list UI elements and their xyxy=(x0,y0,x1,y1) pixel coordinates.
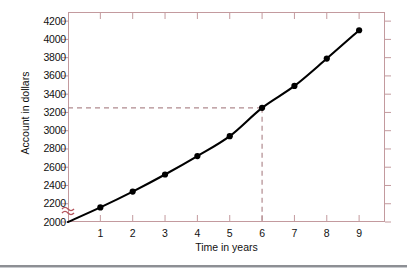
x-tick-label: 1 xyxy=(89,228,111,239)
x-tick-label: 6 xyxy=(251,228,273,239)
x-tick-label: 9 xyxy=(348,228,370,239)
x-tick-label: 5 xyxy=(219,228,241,239)
chart-screenshot: 2000220024002600280030003200340036003800… xyxy=(0,0,407,276)
x-tick-label-group: 123456789 xyxy=(0,0,407,258)
x-tick-label: 3 xyxy=(154,228,176,239)
line-chart-figure: 2000220024002600280030003200340036003800… xyxy=(0,0,407,258)
x-tick-label: 8 xyxy=(316,228,338,239)
y-axis-title: Account in dollars xyxy=(19,43,31,183)
x-tick-label: 7 xyxy=(283,228,305,239)
page-divider-shadow xyxy=(0,267,407,268)
x-tick-label: 4 xyxy=(186,228,208,239)
x-tick-label: 2 xyxy=(122,228,144,239)
x-axis-title: Time in years xyxy=(68,241,385,253)
